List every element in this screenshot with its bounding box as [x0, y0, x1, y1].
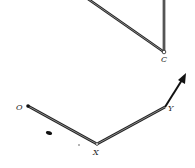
arrowhead-icon	[178, 73, 186, 84]
diagram-canvas: C O X Y	[0, 0, 195, 168]
joint-c	[162, 50, 166, 54]
direction-arrow	[165, 80, 182, 107]
lower-linkage: O X Y	[16, 73, 186, 157]
label-x: X	[92, 148, 99, 157]
label-c: C	[161, 55, 167, 64]
joint-x	[96, 143, 99, 146]
ink-blob	[45, 130, 52, 136]
pivot-o	[26, 104, 30, 108]
ink-dot	[78, 144, 79, 145]
upper-linkage: C	[88, 0, 167, 64]
linkage-diagram: C O X Y	[0, 0, 195, 168]
label-y: Y	[168, 104, 174, 113]
label-o: O	[16, 103, 23, 112]
